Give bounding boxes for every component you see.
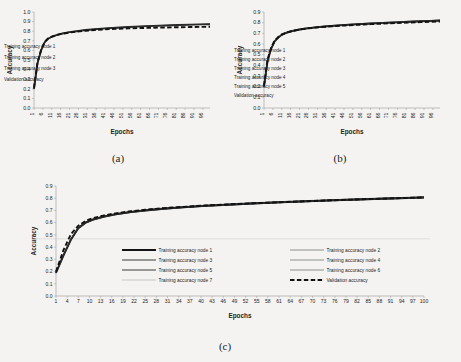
y-tick-label: 0.0: [253, 105, 260, 111]
legend-label: Training accuracy node 5: [234, 84, 286, 89]
caption-c: (c): [195, 340, 255, 352]
y-tick-label: 0.8: [46, 195, 53, 201]
x-tick-label: 79: [343, 298, 349, 304]
chart-panel-b: 0.00.10.20.30.40.50.60.70.80.91611162126…: [234, 4, 456, 146]
x-tick-label: 81: [401, 112, 407, 118]
x-tick-label: 67: [299, 298, 305, 304]
x-tick-label: 97: [410, 298, 416, 304]
x-tick-label: 51: [118, 112, 124, 118]
series-line: [264, 20, 440, 86]
legend-label: Training accuracy node 4: [234, 75, 286, 80]
x-tick-label: 26: [73, 112, 79, 118]
legend-label: Training accuracy node 1: [234, 48, 286, 53]
x-tick-label: 52: [243, 298, 249, 304]
legend-label: Training accuracy node 5: [159, 268, 213, 273]
x-tick-label: 21: [295, 112, 301, 118]
y-tick-label: 0.7: [253, 30, 260, 36]
x-tick-label: 61: [276, 298, 282, 304]
y-tick-label: 0.7: [23, 38, 30, 44]
chart-c-svg: 0.00.10.20.30.40.50.60.70.80.91471013161…: [30, 178, 434, 333]
x-tick-label: 46: [339, 112, 345, 118]
x-tick-label: 1: [29, 112, 35, 115]
chart-a-svg: 0.00.10.20.30.40.50.60.70.80.91.01611162…: [4, 4, 226, 146]
series-line: [34, 27, 210, 88]
x-tick-label: 61: [366, 112, 372, 118]
y-tick-label: 0.3: [46, 256, 53, 262]
x-tick-label: 25: [142, 298, 148, 304]
y-tick-label: 0.9: [253, 9, 260, 15]
x-tick-label: 26: [303, 112, 309, 118]
legend-label: Training accuracy node 1: [4, 44, 56, 49]
x-tick-label: 6: [268, 112, 274, 115]
x-tick-label: 56: [357, 112, 363, 118]
x-tick-label: 56: [127, 112, 133, 118]
y-tick-label: 0.5: [46, 232, 53, 238]
x-tick-label: 76: [392, 112, 398, 118]
y-tick-label: 0.1: [23, 95, 30, 101]
x-tick-label: 1: [55, 298, 58, 304]
x-tick-label: 13: [98, 298, 104, 304]
y-tick-label: 0.4: [46, 244, 53, 250]
x-tick-label: 71: [153, 112, 159, 118]
x-tick-label: 88: [377, 298, 383, 304]
y-tick-label: 0.8: [253, 19, 260, 25]
x-tick-label: 76: [162, 112, 168, 118]
legend-label: Validation accuracy: [4, 77, 44, 82]
x-tick-label: 66: [145, 112, 151, 118]
x-tick-label: 1: [259, 112, 265, 115]
x-tick-label: 73: [321, 298, 327, 304]
series-line: [264, 21, 440, 85]
y-tick-label: 0.2: [23, 86, 30, 92]
x-tick-label: 19: [120, 298, 126, 304]
y-tick-label: 0.0: [23, 105, 30, 111]
chart-panel-c: 0.00.10.20.30.40.50.60.70.80.91471013161…: [30, 178, 434, 333]
series-line: [264, 20, 440, 86]
y-tick-label: 0.8: [23, 28, 30, 34]
x-tick-label: 21: [65, 112, 71, 118]
x-tick-label: 7: [77, 298, 80, 304]
x-tick-label: 85: [365, 298, 371, 304]
y-tick-label: 0.1: [46, 281, 53, 287]
legend-label: Training accuracy node 4: [327, 258, 381, 263]
x-tick-label: 55: [254, 298, 260, 304]
y-tick-label: 0.0: [46, 293, 53, 299]
x-tick-label: 71: [383, 112, 389, 118]
x-tick-label: 6: [38, 112, 44, 115]
legend-label: Training accuracy node 6: [327, 268, 381, 273]
x-tick-label: 31: [312, 112, 318, 118]
x-tick-label: 10: [87, 298, 93, 304]
legend-label: Training accuracy node 2: [327, 248, 381, 253]
caption-b: (b): [310, 152, 370, 164]
y-tick-label: 0.6: [46, 219, 53, 225]
x-tick-label: 64: [287, 298, 293, 304]
x-tick-label: 58: [265, 298, 271, 304]
x-tick-label: 11: [277, 112, 283, 117]
x-tick-label: 36: [321, 112, 327, 118]
x-tick-label: 96: [198, 112, 204, 118]
x-axis-title: Epochs: [340, 128, 364, 136]
x-tick-label: 91: [388, 298, 394, 304]
x-tick-label: 76: [332, 298, 338, 304]
x-tick-label: 43: [209, 298, 215, 304]
x-tick-label: 40: [198, 298, 204, 304]
y-tick-label: 0.9: [46, 183, 53, 189]
legend-label: Training accuracy node 3: [234, 66, 286, 71]
chart-panel-a: 0.00.10.20.30.40.50.60.70.80.91.01611162…: [4, 4, 226, 146]
x-tick-label: 94: [399, 298, 405, 304]
y-tick-label: 0.2: [46, 268, 53, 274]
x-tick-label: 96: [428, 112, 434, 118]
x-tick-label: 4: [66, 298, 69, 304]
legend-label: Training accuracy node 3: [4, 66, 56, 71]
y-tick-label: 1.0: [23, 9, 30, 15]
x-tick-label: 36: [91, 112, 97, 118]
legend-label: Training accuracy node 1: [159, 248, 213, 253]
x-tick-label: 31: [82, 112, 88, 118]
x-tick-label: 37: [187, 298, 193, 304]
x-tick-label: 22: [131, 298, 137, 304]
x-tick-label: 82: [354, 298, 360, 304]
y-tick-label: 0.7: [46, 207, 53, 213]
x-tick-label: 61: [136, 112, 142, 118]
x-tick-label: 66: [375, 112, 381, 118]
x-tick-label: 46: [109, 112, 115, 118]
x-tick-label: 31: [165, 298, 171, 304]
